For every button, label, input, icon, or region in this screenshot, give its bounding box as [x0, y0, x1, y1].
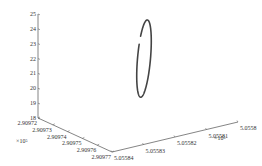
z-tick-label: 23 — [30, 41, 36, 47]
x-tick-label: 2.90977 — [92, 154, 112, 160]
y-tick — [143, 143, 144, 145]
y-tick-label: 5.0558 — [240, 125, 257, 131]
y-tick-label: 5.05582 — [177, 140, 197, 146]
x-tick-label: 2.90976 — [77, 147, 97, 153]
ticks — [38, 14, 238, 152]
x-tick — [97, 144, 99, 145]
y-tick-label: 5.05583 — [146, 148, 166, 154]
z-tick-label: 20 — [30, 85, 36, 91]
y-tick — [206, 128, 207, 130]
x-tick — [53, 124, 55, 125]
y-tick — [237, 121, 238, 123]
series-trajectory-line — [137, 20, 152, 97]
z-tick-label: 22 — [30, 56, 36, 62]
y-tick — [174, 136, 175, 138]
z-tick-label: 24 — [30, 26, 36, 32]
z-tick-label: 25 — [30, 11, 36, 17]
x-tick — [82, 137, 84, 138]
x-tick-label: 2.90974 — [47, 134, 67, 140]
x-tick-label: 2.90972 — [18, 120, 38, 126]
y-axis-multiplier: ×10⁵ — [214, 135, 225, 141]
plot-3d: 18192021222324252.909722.909732.909742.9… — [0, 0, 262, 166]
z-tick-label: 21 — [30, 70, 36, 76]
x-tick — [68, 131, 70, 132]
x-tick-label: 2.90975 — [62, 140, 82, 146]
x-tick-label: 2.90973 — [32, 127, 52, 133]
z-tick-label: 19 — [30, 100, 36, 106]
y-tick-label: 5.05584 — [114, 155, 134, 161]
x-axis-multiplier: ×10⁵ — [16, 138, 27, 144]
